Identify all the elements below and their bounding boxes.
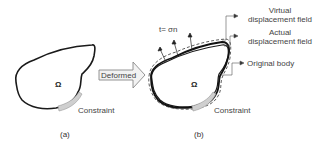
constraint-shape-b bbox=[192, 92, 216, 111]
legend-actual-line1: Actual bbox=[238, 28, 322, 37]
legend-actual-line2: displacement field bbox=[238, 37, 322, 46]
legend-virtual-line1: Virtual bbox=[238, 6, 322, 15]
constraint-label-a: Constraint bbox=[78, 106, 114, 115]
legend-original-body: Original body bbox=[247, 59, 294, 68]
original-body-shape-b bbox=[152, 45, 229, 107]
domain-symbol-b: Ω bbox=[191, 80, 197, 89]
legend-virtual-line2: displacement field bbox=[238, 15, 322, 24]
traction-label: t= σn bbox=[159, 25, 178, 34]
caption-b: (b) bbox=[194, 130, 204, 139]
domain-symbol-a: Ω bbox=[55, 80, 61, 89]
caption-a: (a) bbox=[60, 130, 70, 139]
original-body-shape-a bbox=[16, 45, 95, 109]
deformed-label: Deformed bbox=[101, 71, 136, 80]
constraint-label-b: Constraint bbox=[214, 106, 250, 115]
